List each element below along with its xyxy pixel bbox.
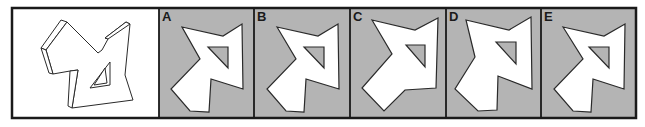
option-a[interactable]: A <box>159 8 254 118</box>
option-label: A <box>162 9 172 24</box>
option-label: D <box>449 9 458 24</box>
option-label: E <box>544 9 553 24</box>
option-e[interactable]: E <box>541 8 636 118</box>
option-label: C <box>353 9 363 24</box>
option-label: B <box>257 9 266 24</box>
option-c[interactable]: C <box>350 8 446 118</box>
option-d[interactable]: D <box>446 8 541 118</box>
puzzle-figure: ABCDE <box>0 0 645 127</box>
option-b[interactable]: B <box>254 8 350 118</box>
answer-options: ABCDE <box>159 8 636 118</box>
question-panel <box>12 8 159 118</box>
